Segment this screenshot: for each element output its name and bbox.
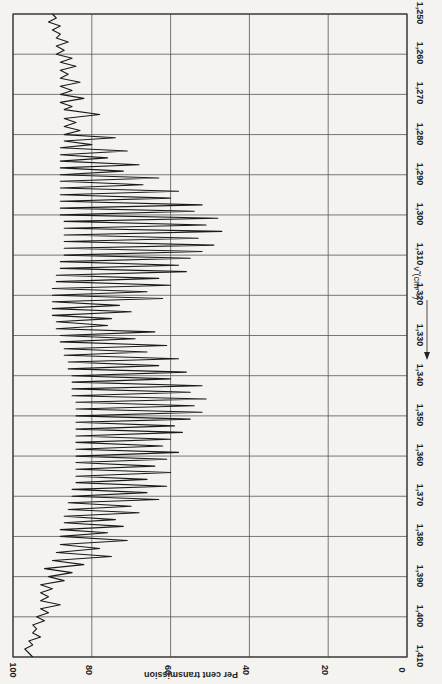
x-tick-label: 1,390 [415,564,425,587]
y-tick-label: 0 [397,667,407,672]
x-tick-label: 1,250 [415,2,425,25]
x-tick-label: 1,300 [415,203,425,226]
x-tick-label: 1,270 [415,82,425,105]
y-tick-label: 40 [241,665,251,675]
x-tick-label: 1,380 [415,524,425,547]
x-tick-label: 1,410 [415,645,425,668]
x-tick-label: 1,260 [415,42,425,65]
x-tick-label: 1,290 [415,162,425,185]
y-tick-label: 20 [320,665,330,675]
x-tick-label: 1,360 [415,444,425,467]
x-tick-label: 1,330 [415,323,425,346]
x-axis-label: ν̃ (cm⁻¹) [412,267,422,300]
x-tick-label: 1,310 [415,243,425,266]
y-tick-label: 100 [8,662,18,677]
y-axis-label: Per cent transmission [144,670,238,680]
x-tick-label: 1,400 [415,605,425,628]
x-tick-label: 1,370 [415,484,425,507]
x-tick-label: 1,350 [415,404,425,427]
y-tick-label: 80 [84,665,94,675]
x-tick-label: 1,280 [415,122,425,145]
x-tick-label: 1,340 [415,363,425,386]
spectrum-chart [0,0,442,684]
